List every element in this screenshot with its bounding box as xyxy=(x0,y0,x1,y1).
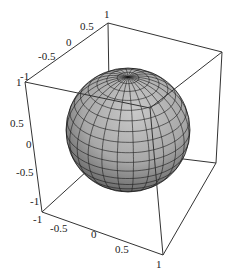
svg-text:1: 1 xyxy=(156,258,162,270)
svg-text:-0.5: -0.5 xyxy=(38,50,56,62)
left-axis-ticks: 1 0.5 0 -0.5 -1 xyxy=(10,76,39,207)
svg-text:0: 0 xyxy=(66,36,72,48)
svg-text:1: 1 xyxy=(104,8,110,20)
svg-text:-1: -1 xyxy=(30,195,39,207)
sphere-3d-plot: -1 -0.5 0 0.5 1 1 0.5 0 -0.5 -1 -1 -0.5 … xyxy=(0,0,239,278)
svg-text:0.5: 0.5 xyxy=(115,243,129,255)
svg-text:-0.5: -0.5 xyxy=(50,222,68,234)
top-axis-ticks: -1 -0.5 0 0.5 1 xyxy=(20,8,110,82)
svg-text:0.5: 0.5 xyxy=(80,20,94,32)
svg-text:-1: -1 xyxy=(33,213,42,225)
svg-text:1: 1 xyxy=(16,76,22,88)
bottom-axis-ticks: -1 -0.5 0 0.5 1 xyxy=(33,213,162,270)
svg-text:0.5: 0.5 xyxy=(10,117,24,129)
svg-text:0: 0 xyxy=(26,138,32,150)
svg-text:-0.5: -0.5 xyxy=(16,166,34,178)
sphere-surface xyxy=(66,68,190,192)
svg-text:0: 0 xyxy=(91,228,97,240)
